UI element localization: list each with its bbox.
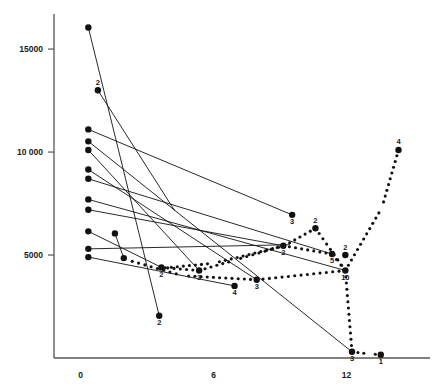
trajectory-dot bbox=[274, 276, 277, 279]
trajectory-dot bbox=[340, 264, 343, 267]
trajectory-dot bbox=[239, 257, 242, 260]
scatter-plot: 500010 00015000 0612 2223343252102314 bbox=[0, 0, 434, 389]
trajectory-dot bbox=[224, 259, 227, 262]
trajectory-dot bbox=[350, 344, 353, 347]
data-point-label-1: 2 bbox=[96, 78, 100, 87]
data-point-marker bbox=[85, 24, 91, 30]
trajectory-dot bbox=[268, 277, 271, 280]
x-axis-ticks: 0612 bbox=[78, 370, 351, 380]
trajectory-dot bbox=[371, 222, 374, 225]
data-point-label-20: 2 bbox=[281, 248, 285, 257]
trajectory-dot bbox=[377, 211, 380, 214]
trajectory-dot bbox=[206, 262, 209, 265]
trajectory-dot bbox=[212, 276, 215, 279]
data-point-label-19: 3 bbox=[290, 217, 294, 226]
trajectory-dot bbox=[203, 267, 206, 270]
trajectory-dot bbox=[131, 260, 134, 263]
trajectory-dot bbox=[309, 230, 312, 233]
trajectory-dot bbox=[394, 160, 397, 163]
trajectory-dot bbox=[348, 319, 351, 322]
trajectory-dot bbox=[215, 264, 218, 267]
trajectory-dot bbox=[170, 266, 173, 269]
trajectory-dot bbox=[253, 252, 256, 255]
solid-line-segments bbox=[88, 27, 352, 351]
trajectory-dot bbox=[382, 200, 385, 203]
trajectory-dot bbox=[390, 172, 393, 175]
data-point-marker bbox=[85, 246, 91, 252]
trajectory-dot bbox=[271, 247, 274, 250]
trajectory-dot bbox=[294, 246, 297, 249]
trajectory-dot bbox=[193, 275, 196, 278]
trajectory-dot bbox=[318, 272, 321, 275]
trajectory-dot bbox=[179, 267, 182, 270]
trajectory-dot bbox=[325, 271, 328, 274]
trajectory-dot bbox=[336, 258, 339, 261]
trajectory-dot bbox=[293, 238, 296, 241]
y-axis-ticks: 500010 00015000 bbox=[17, 44, 54, 260]
trajectory-dot bbox=[259, 250, 262, 253]
trajectory-dot bbox=[374, 217, 377, 220]
trajectory-dot bbox=[293, 274, 296, 277]
trajectory-dot bbox=[362, 352, 365, 355]
data-point-label-24: 2 bbox=[313, 216, 317, 225]
solid-segment bbox=[98, 90, 175, 210]
trajectory-dot bbox=[350, 258, 353, 261]
dotted-trajectories bbox=[131, 148, 400, 356]
trajectory-dot bbox=[209, 265, 212, 268]
trajectory-dot bbox=[348, 325, 351, 328]
y-tick-label-0: 5000 bbox=[24, 250, 43, 260]
data-point-marker bbox=[85, 228, 91, 234]
trajectory-dot bbox=[243, 278, 246, 281]
trajectory-dot bbox=[318, 250, 321, 253]
data-point-marker bbox=[85, 176, 91, 182]
trajectory-dot bbox=[218, 260, 221, 263]
trajectory-dot bbox=[188, 264, 191, 267]
trajectory-dot bbox=[288, 245, 291, 248]
trajectory-dot bbox=[374, 353, 377, 356]
data-point-markers bbox=[85, 24, 402, 358]
x-tick-label-1: 6 bbox=[211, 370, 216, 380]
trajectory-dot bbox=[200, 263, 203, 266]
trajectory-dot bbox=[362, 238, 365, 241]
trajectory-dot bbox=[236, 256, 239, 259]
trajectory-dot bbox=[324, 251, 327, 254]
data-point-marker bbox=[395, 147, 401, 153]
trajectory-dot bbox=[185, 268, 188, 271]
trajectory-dot bbox=[349, 338, 352, 341]
trajectory-dot bbox=[218, 276, 221, 279]
trajectory-dot bbox=[346, 294, 349, 297]
trajectory-dot bbox=[206, 275, 209, 278]
data-point-label-16: 3 bbox=[197, 273, 201, 282]
trajectory-dot bbox=[187, 274, 190, 277]
trajectory-dot bbox=[247, 253, 250, 256]
data-point-marker bbox=[112, 230, 118, 236]
y-tick-label-1: 10 000 bbox=[17, 147, 43, 157]
data-point-marker bbox=[85, 138, 91, 144]
trajectory-dot bbox=[384, 195, 387, 198]
trajectory-dot bbox=[365, 232, 368, 235]
data-point-marker bbox=[85, 254, 91, 260]
trajectory-dot bbox=[385, 189, 388, 192]
trajectory-dot bbox=[325, 243, 328, 246]
trajectory-dot bbox=[349, 332, 352, 335]
data-point-marker bbox=[95, 87, 101, 93]
trajectory-dot bbox=[242, 254, 245, 257]
trajectory-dot bbox=[347, 306, 350, 309]
trajectory-dot bbox=[387, 183, 390, 186]
trajectory-dot bbox=[347, 264, 350, 267]
trajectory-dot bbox=[277, 246, 280, 249]
data-point-marker bbox=[85, 126, 91, 132]
trajectory-dot bbox=[288, 241, 291, 244]
data-point-marker bbox=[85, 147, 91, 153]
trajectory-dot bbox=[329, 248, 332, 251]
trajectory-dot bbox=[299, 274, 302, 277]
trajectory-dot bbox=[176, 265, 179, 268]
trajectory-dot bbox=[230, 257, 233, 260]
trajectory-dot bbox=[237, 277, 240, 280]
trajectory-dot bbox=[221, 262, 224, 265]
trajectory-dot bbox=[353, 253, 356, 256]
data-point-label-15: 2 bbox=[159, 270, 163, 279]
trajectory-dot bbox=[172, 267, 175, 270]
data-point-marker bbox=[342, 252, 348, 258]
trajectory-dot bbox=[175, 272, 178, 275]
